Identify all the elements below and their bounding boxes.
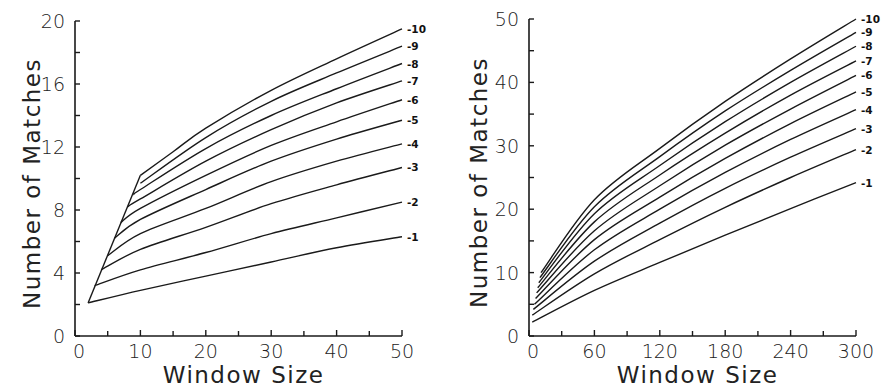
series-end-label: -5 [407, 114, 419, 126]
series-end-label: -8 [861, 40, 873, 52]
x-tick-label: 240 [772, 340, 808, 362]
y-axis-label: Number of Matches [19, 58, 45, 309]
left-chart-panel: 04812162001020304050Window SizeNumber of… [19, 10, 426, 388]
series-end-label: -2 [407, 196, 419, 208]
series-line-neg6 [121, 100, 402, 223]
y-tick-label: 4 [53, 262, 65, 284]
series-line-neg9 [540, 32, 856, 277]
x-tick-label: 40 [325, 340, 349, 362]
series-end-label: -1 [861, 177, 873, 189]
y-tick-label: 20 [41, 10, 65, 32]
x-tick-label: 0 [73, 340, 85, 362]
x-axis-label: Window Size [617, 362, 779, 388]
x-tick-label: 0 [527, 340, 539, 362]
x-tick-label: 10 [128, 340, 152, 362]
right-chart-panel: 01020304050060120180240300Window SizeNum… [466, 8, 880, 388]
series-line-neg1 [88, 237, 402, 303]
series-line-neg5 [536, 92, 856, 299]
y-tick-label: 30 [495, 135, 519, 157]
series-end-label: -4 [861, 104, 873, 116]
y-tick-label: 8 [53, 199, 65, 221]
x-tick-label: 50 [390, 340, 414, 362]
y-tick-label: 0 [53, 325, 65, 347]
series-end-label: -7 [407, 75, 419, 87]
y-axis-label: Number of Matches [466, 57, 492, 308]
series-end-label: -5 [861, 86, 873, 98]
x-tick-label: 60 [582, 340, 606, 362]
series-end-label: -7 [861, 55, 873, 67]
x-tick-label: 120 [642, 340, 678, 362]
series-end-label: -10 [861, 13, 880, 25]
series-end-label: -1 [407, 231, 419, 243]
series-end-label: -10 [407, 23, 426, 35]
series-end-label: -3 [861, 123, 873, 135]
series-line-neg6 [537, 75, 856, 292]
series-line-neg8 [133, 64, 402, 195]
x-tick-label: 180 [707, 340, 743, 362]
y-tick-label: 0 [507, 325, 519, 347]
series-end-label: -4 [407, 138, 419, 150]
y-tick-label: 40 [495, 71, 519, 93]
series-end-label: -6 [861, 69, 873, 81]
series-end-label: -9 [407, 40, 419, 52]
x-axis-label: Window Size [163, 362, 325, 388]
series-line-neg7 [127, 81, 402, 207]
series-line-neg3 [101, 167, 402, 269]
y-tick-label: 50 [495, 8, 519, 30]
figure: 04812162001020304050Window SizeNumber of… [0, 0, 886, 391]
series-end-label: -9 [861, 26, 873, 38]
x-tick-label: 30 [259, 340, 283, 362]
series-end-label: -6 [407, 94, 419, 106]
series-end-label: -8 [407, 58, 419, 70]
series-end-label: -2 [861, 144, 873, 156]
series-line-neg9 [140, 46, 402, 183]
x-tick-label: 300 [838, 340, 874, 362]
series-line-neg10 [541, 19, 856, 273]
x-tick-label: 20 [194, 340, 218, 362]
series-line-neg4 [534, 110, 856, 305]
y-tick-label: 10 [495, 262, 519, 284]
series-end-label: -3 [407, 161, 419, 173]
series-line-neg2 [532, 150, 856, 315]
y-tick-label: 20 [495, 198, 519, 220]
